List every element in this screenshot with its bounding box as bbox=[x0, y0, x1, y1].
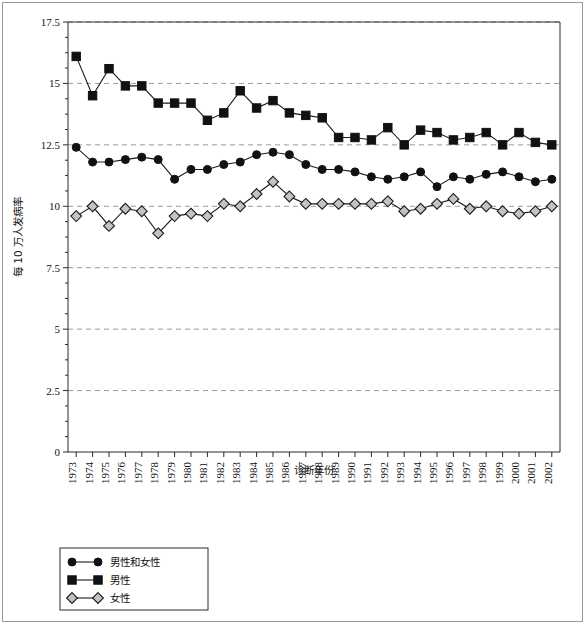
x-axis-title: 诊断年份 bbox=[294, 464, 335, 476]
data-point bbox=[548, 175, 556, 183]
y-tick-label: 17.5 bbox=[41, 16, 61, 28]
data-point bbox=[235, 201, 246, 212]
data-point bbox=[285, 151, 293, 159]
data-point bbox=[220, 161, 228, 169]
x-tick-label: 1993 bbox=[394, 462, 406, 485]
data-point bbox=[269, 96, 277, 104]
data-point bbox=[138, 153, 146, 161]
figure-container: 02.557.51012.51517.519731974197519761977… bbox=[0, 0, 586, 625]
data-point bbox=[548, 141, 556, 149]
x-tick-label: 1979 bbox=[165, 462, 177, 485]
legend-marker-1 bbox=[94, 576, 102, 584]
data-point bbox=[187, 99, 195, 107]
data-point bbox=[154, 156, 162, 164]
x-tick-label: 1984 bbox=[247, 462, 259, 485]
legend-label-0: 男性和女性 bbox=[110, 556, 160, 568]
data-point bbox=[203, 165, 211, 173]
y-tick-label: 12.5 bbox=[41, 139, 61, 151]
data-point bbox=[497, 206, 508, 217]
x-tick-label: 1997 bbox=[460, 462, 472, 485]
data-point bbox=[202, 211, 213, 222]
data-point bbox=[432, 198, 443, 209]
data-point bbox=[449, 173, 457, 181]
data-point bbox=[300, 198, 311, 209]
data-point bbox=[333, 198, 344, 209]
data-point bbox=[417, 168, 425, 176]
data-point bbox=[170, 99, 178, 107]
x-tick-label: 1981 bbox=[197, 462, 209, 484]
x-tick-label: 1982 bbox=[214, 462, 226, 484]
data-point bbox=[285, 109, 293, 117]
data-point bbox=[351, 168, 359, 176]
data-point bbox=[105, 158, 113, 166]
data-point bbox=[253, 151, 261, 159]
data-point bbox=[400, 141, 408, 149]
data-point bbox=[252, 104, 260, 112]
x-tick-label: 1977 bbox=[132, 462, 144, 485]
data-point bbox=[464, 203, 475, 214]
y-tick-label: 2.5 bbox=[46, 385, 60, 397]
data-point bbox=[367, 173, 375, 181]
data-point bbox=[384, 175, 392, 183]
data-point bbox=[546, 201, 557, 212]
x-tick-label: 2000 bbox=[509, 462, 521, 485]
data-point bbox=[482, 128, 490, 136]
data-point bbox=[302, 111, 310, 119]
data-point bbox=[121, 82, 129, 90]
x-tick-label: 1975 bbox=[99, 462, 111, 485]
data-point bbox=[269, 148, 277, 156]
x-tick-label: 1980 bbox=[181, 462, 193, 485]
x-tick-label: 1990 bbox=[345, 462, 357, 485]
data-point bbox=[351, 133, 359, 141]
data-point bbox=[515, 128, 523, 136]
y-tick-label: 7.5 bbox=[46, 262, 60, 274]
y-tick-label: 5 bbox=[55, 323, 61, 335]
data-point bbox=[350, 198, 361, 209]
data-point bbox=[466, 133, 474, 141]
data-point bbox=[466, 175, 474, 183]
data-point bbox=[448, 194, 459, 205]
data-point bbox=[72, 143, 80, 151]
data-point bbox=[318, 165, 326, 173]
line-chart-plot: 02.557.51012.51517.519731974197519761977… bbox=[0, 0, 586, 625]
data-point bbox=[399, 206, 410, 217]
legend-label-2: 女性 bbox=[110, 592, 130, 604]
data-point bbox=[71, 211, 82, 222]
x-tick-label: 1986 bbox=[279, 462, 291, 485]
x-tick-label: 1973 bbox=[66, 462, 78, 485]
series-line-2 bbox=[76, 182, 552, 234]
x-tick-label: 2002 bbox=[542, 462, 554, 484]
data-point bbox=[416, 126, 424, 134]
data-point bbox=[335, 165, 343, 173]
y-tick-label: 15 bbox=[49, 77, 61, 89]
x-tick-label: 1999 bbox=[493, 461, 505, 484]
x-tick-label: 1991 bbox=[361, 462, 373, 484]
y-axis-title: 每 10 万人发病率 bbox=[12, 197, 24, 277]
data-point bbox=[105, 64, 113, 72]
data-point bbox=[482, 170, 490, 178]
x-tick-label: 1985 bbox=[263, 462, 275, 485]
x-tick-label: 1978 bbox=[148, 462, 160, 485]
data-point bbox=[498, 141, 506, 149]
data-point bbox=[236, 158, 244, 166]
legend-label-1: 男性 bbox=[110, 574, 130, 586]
data-point bbox=[334, 133, 342, 141]
series-line-0 bbox=[76, 147, 552, 186]
x-tick-label: 1974 bbox=[83, 462, 95, 485]
data-point bbox=[531, 138, 539, 146]
data-point bbox=[136, 206, 147, 217]
data-point bbox=[384, 123, 392, 131]
x-tick-label: 1998 bbox=[476, 462, 488, 485]
data-point bbox=[531, 178, 539, 186]
data-point bbox=[203, 116, 211, 124]
data-point bbox=[382, 196, 393, 207]
data-point bbox=[89, 158, 97, 166]
data-point bbox=[317, 198, 328, 209]
x-tick-label: 2001 bbox=[525, 462, 537, 484]
data-point bbox=[88, 92, 96, 100]
data-point bbox=[318, 114, 326, 122]
data-point bbox=[72, 52, 80, 60]
x-tick-label: 1994 bbox=[411, 462, 423, 485]
data-point bbox=[218, 198, 229, 209]
data-point bbox=[530, 206, 541, 217]
